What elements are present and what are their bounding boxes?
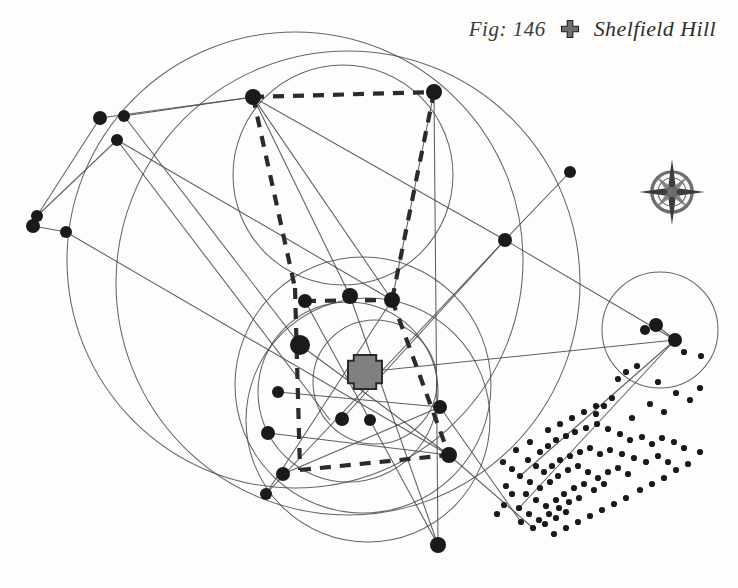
small-site-dot [553,497,559,503]
site-node [60,226,72,238]
alignment-line [37,118,100,216]
site-node [564,166,576,178]
small-site-dot [637,487,643,493]
small-site-dot [639,434,645,440]
small-site-dot [587,513,593,519]
small-site-dot [593,411,599,417]
small-site-dot [513,447,519,453]
small-site-dot [537,449,543,455]
alignment-line [266,300,392,494]
small-site-dot [599,507,605,513]
small-site-dot [593,403,599,409]
dashed-alignment-line [392,300,449,455]
site-node [260,488,272,500]
alignment-line [350,296,438,545]
small-site-dot [503,483,509,489]
site-node [93,111,107,125]
small-site-dot [681,445,687,451]
small-site-dot [509,466,515,472]
alignment-line [434,92,438,545]
site-node [430,537,446,553]
small-site-dot [557,421,563,427]
small-site-dot [601,403,607,409]
small-site-dot [551,531,557,537]
small-site-dot [542,521,548,527]
small-site-dot [556,505,562,511]
small-site-dot [631,455,637,461]
site-node [261,426,275,440]
site-node [426,84,442,100]
small-site-dot [565,467,571,473]
small-site-dot [575,519,581,525]
small-site-dot [661,475,667,481]
dashed-alignment-line [253,92,434,97]
small-site-dot [591,487,597,493]
small-site-dot [594,421,600,427]
small-site-dot [634,363,640,369]
alignment-line [124,116,300,345]
small-site-dot [643,459,649,465]
site-plan-svg [0,0,738,588]
site-node [298,294,312,308]
figure-plan-container: Fig: 146 Shelfield Hill [0,0,738,588]
site-node [111,134,123,146]
small-site-dot [523,491,529,497]
figure-caption: Fig: 146 Shelfield Hill [469,16,716,42]
site-node [649,318,663,332]
dashed-alignment-layer [253,92,449,470]
circle-layer [67,32,718,542]
small-site-dot [563,509,569,515]
site-node [245,89,261,105]
small-site-dot [517,473,523,479]
small-site-dot [607,447,613,453]
small-site-dot [545,443,551,449]
alignment-line [66,232,449,455]
dashed-alignment-line [253,97,295,288]
small-site-dot [629,415,635,421]
small-site-dot [530,525,536,531]
site-node [276,467,290,481]
small-site-dot [555,473,561,479]
figure-number-label: Fig: 146 [469,17,546,42]
plan-circle [67,32,523,488]
small-site-dot [587,445,593,451]
small-site-dot [541,469,547,475]
small-site-dot [681,349,687,355]
site-node [364,414,376,426]
small-site-dot [576,495,582,501]
small-site-dot [516,505,522,511]
plan-circle [116,51,580,515]
small-site-dot [575,463,581,469]
plan-circle [258,302,438,482]
small-dot-layer [494,349,704,537]
plan-circle [233,65,453,285]
alignment-line [37,140,117,216]
small-site-dot [561,491,567,497]
small-site-dot [563,433,569,439]
site-node [342,288,358,304]
small-site-dot [569,415,575,421]
small-site-dot [617,431,623,437]
site-node [441,447,457,463]
small-site-dot [597,451,603,457]
site-node [384,292,400,308]
small-site-dot [601,481,607,487]
small-site-dot [527,439,533,445]
small-site-dot [563,525,569,531]
small-site-dot [698,353,704,359]
alignment-line [505,172,570,240]
small-site-dot [605,426,611,432]
small-site-dot [585,469,591,475]
small-site-dot [546,511,552,517]
site-marker-layer [348,355,382,389]
small-site-dot [655,379,661,385]
site-node [335,412,349,426]
alignment-line [117,140,392,300]
small-site-dot [553,437,559,443]
small-site-dot [611,501,617,507]
small-site-dot [581,409,587,415]
small-site-dot [545,427,551,433]
shelfield-hill-marker [348,355,382,389]
small-site-dot [623,369,629,375]
small-site-dot [557,457,563,463]
